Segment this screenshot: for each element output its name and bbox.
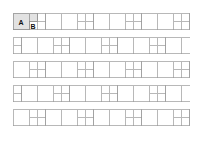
small-square-tile (29, 109, 37, 117)
small-square-tile (173, 61, 181, 69)
large-square-tile (165, 85, 181, 101)
small-square-tile (125, 109, 133, 117)
large-square-tile (69, 37, 85, 53)
small-square-tile (13, 45, 21, 53)
small-square-tile (101, 37, 109, 45)
small-square-tile (77, 69, 85, 77)
large-square-tile (45, 13, 61, 29)
small-square-tile (29, 69, 37, 77)
small-square-tile (181, 21, 189, 29)
small-square-tile (37, 13, 45, 21)
small-square-tile (133, 117, 141, 125)
small-square-tile (181, 61, 189, 69)
large-square-tile (85, 85, 101, 101)
small-square-tile (77, 21, 85, 29)
small-square-tile (173, 109, 181, 117)
small-square-tile (29, 117, 37, 125)
small-square-tile (149, 93, 157, 101)
large-square-tile (45, 61, 61, 77)
large-square-tile (37, 85, 53, 101)
large-square-tile (133, 85, 149, 101)
small-square-tile (37, 21, 45, 29)
small-square-tile (85, 69, 93, 77)
large-square-tile (141, 13, 157, 29)
small-square-tile (61, 93, 69, 101)
small-square-tile (149, 37, 157, 45)
tile-pattern-figure: AB (0, 0, 203, 142)
small-square-tile (181, 109, 189, 117)
small-square-tile (77, 109, 85, 117)
large-square-tile (21, 85, 37, 101)
large-square-tile (61, 61, 77, 77)
large-square-tile (117, 37, 133, 53)
small-square-tile (109, 45, 117, 53)
large-square-tile (157, 109, 173, 125)
small-square-tile (53, 45, 61, 53)
small-square-tile (53, 37, 61, 45)
small-square-tile (125, 13, 133, 21)
small-square-tile (181, 13, 189, 21)
large-square-tile (109, 109, 125, 125)
label-a: A (18, 19, 23, 26)
small-square-tile (133, 21, 141, 29)
small-square-tile (109, 85, 117, 93)
small-square-tile (157, 37, 165, 45)
small-square-tile (37, 109, 45, 117)
small-square-tile (37, 61, 45, 69)
small-square-tile (133, 69, 141, 77)
small-square-tile (149, 85, 157, 93)
large-square-tile (165, 37, 181, 53)
small-square-tile (61, 45, 69, 53)
large-square-tile (157, 61, 173, 77)
small-square-tile (125, 61, 133, 69)
large-square-tile (133, 37, 149, 53)
highlighted-small-tile-b (29, 13, 37, 21)
small-square-tile (125, 117, 133, 125)
small-square-tile (85, 109, 93, 117)
small-square-tile (85, 61, 93, 69)
small-square-tile (101, 85, 109, 93)
small-square-tile (101, 45, 109, 53)
small-square-tile (181, 69, 189, 77)
small-square-tile (109, 37, 117, 45)
large-square-tile (141, 109, 157, 125)
small-square-tile (53, 93, 61, 101)
small-square-tile (157, 93, 165, 101)
small-square-tile (61, 85, 69, 93)
small-square-tile (29, 61, 37, 69)
small-square-tile (133, 109, 141, 117)
large-square-tile (45, 109, 61, 125)
large-square-tile (69, 85, 85, 101)
large-square-tile (141, 61, 157, 77)
large-square-tile (109, 13, 125, 29)
small-square-tile (13, 93, 21, 101)
small-square-tile (85, 13, 93, 21)
small-square-tile (157, 85, 165, 93)
small-square-tile (37, 69, 45, 77)
small-square-tile (125, 21, 133, 29)
large-square-tile (21, 37, 37, 53)
small-square-tile (61, 37, 69, 45)
large-square-tile (157, 13, 173, 29)
small-square-tile (37, 117, 45, 125)
small-square-tile (181, 117, 189, 125)
small-square-tile (77, 13, 85, 21)
large-square-tile (61, 13, 77, 29)
small-square-tile (173, 69, 181, 77)
small-square-tile (85, 117, 93, 125)
small-square-tile (77, 61, 85, 69)
small-square-tile (109, 93, 117, 101)
small-square-tile (173, 21, 181, 29)
small-square-tile (13, 37, 21, 45)
small-square-tile (53, 85, 61, 93)
small-square-tile (157, 45, 165, 53)
large-square-tile (13, 109, 29, 125)
large-square-tile (61, 109, 77, 125)
small-square-tile (85, 21, 93, 29)
large-square-tile (37, 37, 53, 53)
pattern-canvas: AB (0, 0, 203, 142)
small-square-tile (133, 13, 141, 21)
large-square-tile (85, 37, 101, 53)
label-b: B (30, 23, 35, 30)
small-square-tile (125, 69, 133, 77)
